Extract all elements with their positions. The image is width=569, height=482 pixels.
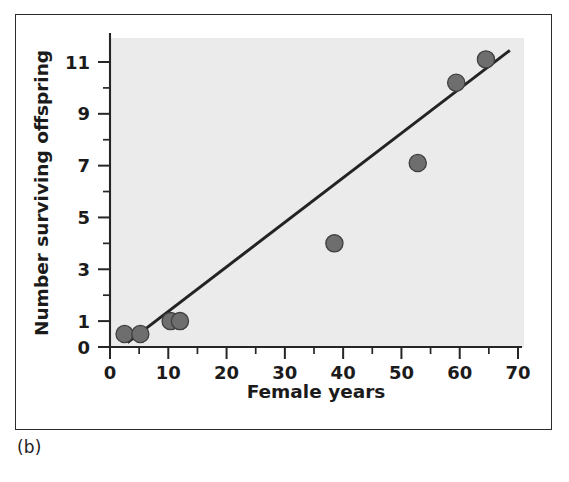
panel-label: (b) <box>17 437 42 457</box>
figure-frame <box>15 14 552 430</box>
figure-root: 01357911 010203040506070 Female years Nu… <box>0 0 569 482</box>
